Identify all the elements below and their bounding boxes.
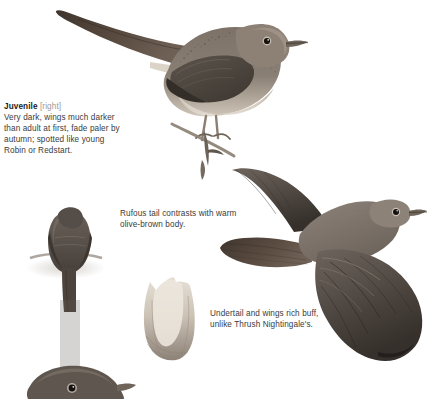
- figure-undertail-detail: [144, 276, 195, 361]
- annotation-juvenile-heading: Juvenile: [4, 102, 38, 111]
- bird-plate-illustrations: [0, 0, 427, 399]
- plate-page: Juvenile [right] Very dark, wings much d…: [0, 0, 427, 399]
- annotation-tail: Rufous tail contrasts with warm olive-br…: [120, 208, 240, 230]
- annotation-undertail: Undertail and wings rich buff, unlike Th…: [210, 308, 328, 330]
- figure-rear-view-bird: [26, 207, 106, 399]
- figure-bottom-head: [27, 366, 136, 399]
- annotation-juvenile: Juvenile [right] Very dark, wings much d…: [4, 101, 126, 156]
- figure-flying-bird: [220, 168, 427, 361]
- annotation-juvenile-qualifier: [right]: [40, 102, 61, 111]
- annotation-undertail-body: Undertail and wings rich buff, unlike Th…: [210, 309, 318, 329]
- annotation-juvenile-body: Very dark, wings much darker than adult …: [4, 113, 120, 155]
- annotation-tail-body: Rufous tail contrasts with warm olive-br…: [120, 209, 236, 229]
